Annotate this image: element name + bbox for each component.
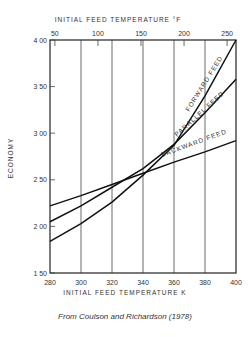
svg-text:320: 320 — [106, 279, 118, 286]
source-caption: From Coulson and Richardson (1978) — [0, 312, 250, 321]
svg-text:300: 300 — [75, 279, 87, 286]
svg-text:400: 400 — [230, 279, 242, 286]
svg-text:250: 250 — [221, 30, 233, 37]
svg-text:360: 360 — [168, 279, 180, 286]
svg-text:150: 150 — [135, 30, 147, 37]
top-axis-ticks: 50100150200250 — [51, 30, 233, 46]
svg-text:200: 200 — [178, 30, 190, 37]
svg-text:2 00: 2 00 — [33, 223, 47, 230]
x-axis-ticks: 280300320340360380400 — [44, 279, 242, 286]
svg-text:340: 340 — [137, 279, 149, 286]
top-axis-title: INITIAL FEED TEMPERATURE °F — [55, 16, 182, 23]
svg-text:50: 50 — [51, 30, 59, 37]
svg-text:100: 100 — [92, 30, 104, 37]
chart: 1 502 002 503 003 504 00 280300320340360… — [0, 0, 250, 337]
svg-text:1 50: 1 50 — [33, 270, 47, 277]
x-axis-title: INITIAL FEED TEMPERATURE K — [63, 289, 186, 296]
svg-text:3 00: 3 00 — [33, 130, 47, 137]
grid-lines — [81, 40, 205, 273]
label-backward-feed: BACKWARD FEED — [160, 128, 228, 158]
svg-text:3 50: 3 50 — [33, 83, 47, 90]
y-axis-title: ECONOMY — [7, 138, 14, 179]
svg-text:4 00: 4 00 — [33, 37, 47, 44]
svg-text:380: 380 — [199, 279, 211, 286]
svg-text:2 50: 2 50 — [33, 176, 47, 183]
svg-text:280: 280 — [44, 279, 56, 286]
